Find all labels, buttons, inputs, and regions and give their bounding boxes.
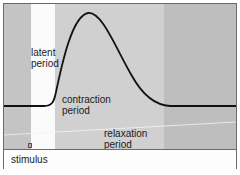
myogram-frame: latent period contraction period relaxat… — [3, 3, 237, 169]
stimulus-bar: stimulus — [4, 149, 236, 169]
stimulus-label: stimulus — [11, 154, 48, 165]
latent-period-label: latent period — [31, 48, 59, 69]
contraction-period-label: contraction period — [62, 95, 111, 116]
myogram-plot: latent period contraction period relaxat… — [4, 4, 236, 149]
relaxation-period-label: relaxation period — [104, 129, 147, 149]
stimulus-marker — [28, 143, 32, 148]
